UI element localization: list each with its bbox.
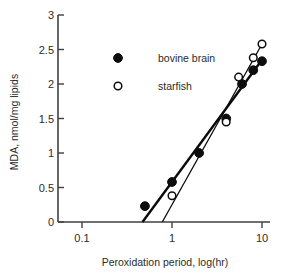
data-points	[141, 40, 267, 210]
legend-marker-starfish	[114, 82, 122, 90]
y-tick-label: 0.5	[39, 182, 54, 194]
legend-label-bovine-brain: bovine brain	[158, 52, 215, 64]
chart-legend: bovine brainstarfish	[114, 52, 216, 92]
data-point-starfish	[235, 73, 243, 81]
x-tick-label: 10	[256, 232, 268, 244]
data-point-starfish	[168, 192, 176, 200]
data-point-bovine-brain	[195, 149, 204, 158]
data-point-bovine-brain	[249, 66, 258, 75]
data-point-bovine-brain	[141, 202, 150, 211]
data-point-starfish	[222, 118, 230, 126]
y-tick-label: 2.5	[39, 44, 54, 56]
x-axis-title: Peroxidation period, log(hr)	[102, 256, 229, 268]
fit-line-starfish	[162, 41, 263, 222]
data-point-bovine-brain	[258, 57, 267, 66]
x-tick-label: 1	[169, 232, 175, 244]
x-tick-label: 0.1	[74, 232, 89, 244]
axis-labels: Peroxidation period, log(hr)MDA, nmol/mg…	[8, 74, 228, 268]
scatter-plot: 00.511.522.530.1110 Peroxidation period,…	[0, 0, 285, 276]
axes: 00.511.522.530.1110	[39, 9, 270, 244]
data-point-starfish	[249, 54, 257, 62]
y-tick-label: 0	[48, 216, 54, 228]
legend-label-starfish: starfish	[158, 80, 192, 92]
data-point-starfish	[258, 40, 266, 48]
fit-lines	[142, 41, 263, 222]
y-tick-label: 2	[48, 78, 54, 90]
y-axis-title: MDA, nmol/mg lipids	[8, 74, 20, 170]
y-tick-label: 1	[48, 147, 54, 159]
y-tick-label: 3	[48, 9, 54, 21]
y-tick-label: 1.5	[39, 113, 54, 125]
chart-figure: 00.511.522.530.1110 Peroxidation period,…	[0, 0, 285, 276]
legend-marker-bovine-brain	[114, 54, 123, 63]
data-point-bovine-brain	[168, 178, 177, 187]
